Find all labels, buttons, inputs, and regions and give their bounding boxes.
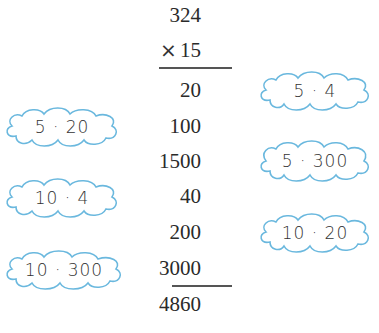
cloud-hint: 10 · 20 xyxy=(256,212,374,254)
cloud-label: 10 · 300 xyxy=(2,249,126,291)
multiplicand: 324 xyxy=(170,3,202,27)
cloud-label: 10 · 4 xyxy=(2,177,122,219)
result: 4860 xyxy=(159,292,201,316)
cloud-label: 5 · 300 xyxy=(256,139,374,183)
cloud-label: 5 · 4 xyxy=(256,70,374,112)
partial-product: 100 xyxy=(170,114,202,138)
sum-rule xyxy=(172,285,232,287)
partial-product: 1500 xyxy=(159,149,201,173)
partial-product: 3000 xyxy=(159,256,201,280)
partial-product: 40 xyxy=(180,184,201,208)
cloud-hint: 10 · 4 xyxy=(2,177,122,219)
cloud-hint: 10 · 300 xyxy=(2,249,126,291)
cloud-label: 5 · 20 xyxy=(2,106,122,148)
cloud-hint: 5 · 20 xyxy=(2,106,122,148)
partial-product: 200 xyxy=(170,220,202,244)
cloud-hint: 5 · 4 xyxy=(256,70,374,112)
multiplication-rule xyxy=(159,67,232,69)
times-sign: × xyxy=(160,38,177,62)
partial-product: 20 xyxy=(180,78,201,102)
cloud-hint: 5 · 300 xyxy=(256,139,374,183)
multiplier: 15 xyxy=(180,38,201,62)
cloud-label: 10 · 20 xyxy=(256,212,374,254)
